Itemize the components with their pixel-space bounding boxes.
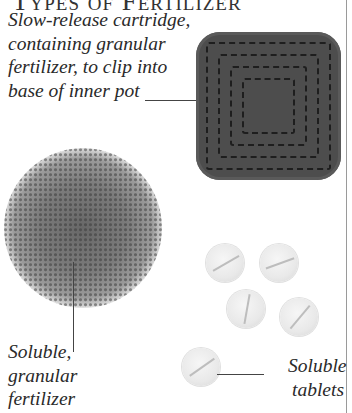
granular-caption: Soluble, granular fertilizer: [8, 340, 98, 411]
granular-fertilizer-illustration: [4, 148, 162, 308]
granular-leader-line: [73, 262, 74, 352]
tablets-leader-line: [217, 374, 264, 375]
tablet-illustration: [182, 348, 220, 386]
tablet-illustration: [280, 298, 318, 336]
tablets-caption: Soluble tablets: [288, 354, 344, 401]
tablet-illustration: [260, 244, 298, 282]
tablet-illustration: [206, 244, 244, 282]
tablet-illustration: [227, 290, 265, 328]
slow-release-cartridge-illustration: [196, 32, 341, 180]
cartridge-caption: Slow-release cartridge, containing granu…: [8, 8, 203, 102]
page-edge-rule: [346, 0, 347, 413]
